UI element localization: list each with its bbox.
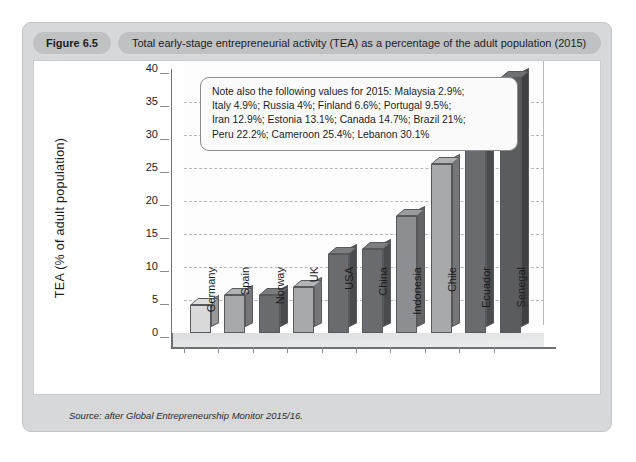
y-tick-mark — [160, 238, 169, 239]
y-tick-label: 40 — [132, 62, 158, 74]
figure-card: Figure 6.5 Total early-stage entrepreneu… — [22, 22, 612, 432]
x-tick-mark — [356, 347, 357, 353]
y-tick-label: 0 — [132, 326, 158, 338]
annotation-note-box: Note also the following values for 2015:… — [200, 77, 518, 151]
source-prefix: Source: after — [69, 410, 126, 421]
note-line: Note also the following values for 2015:… — [212, 85, 506, 99]
x-tick-mark — [184, 347, 185, 353]
bar-chart: TEA (% of adult population) 403530252015… — [34, 61, 602, 397]
note-line: Peru 22.2%; Cameroon 25.4%; Lebanon 30.1… — [212, 128, 506, 142]
x-tick-label: Germany — [205, 267, 217, 357]
figure-header: Figure 6.5 Total early-stage entrepreneu… — [33, 32, 601, 54]
x-axis-line — [171, 347, 556, 349]
y-tick-mark — [160, 73, 169, 74]
x-tick-mark — [253, 347, 254, 353]
y-tick-label: 20 — [132, 194, 158, 206]
x-tick-label: China — [377, 267, 389, 357]
x-tick-mark — [287, 347, 288, 353]
x-axis-left-edge — [171, 333, 173, 348]
figure-number-badge: Figure 6.5 — [33, 32, 111, 54]
x-tick-label: Ecuador — [480, 267, 492, 357]
y-tick-mark — [160, 172, 169, 173]
figure-source: Source: after Global Entrepreneurship Mo… — [69, 410, 303, 421]
y-tick-label: 30 — [132, 128, 158, 140]
x-tick-label: Senegal — [515, 267, 527, 357]
x-tick-label: Indonesia — [411, 267, 423, 357]
y-tick-label: 5 — [132, 293, 158, 305]
x-tick-mark — [425, 347, 426, 353]
x-tick-mark — [459, 347, 460, 353]
x-tick-mark — [218, 347, 219, 353]
x-tick-mark — [322, 347, 323, 353]
x-tick-label: UK — [308, 267, 320, 357]
x-tick-label: USA — [343, 267, 355, 357]
y-tick-label: 10 — [132, 260, 158, 272]
y-tick-mark — [160, 304, 169, 305]
note-line: Iran 12.9%; Estonia 13.1%; Canada 14.7%;… — [212, 113, 506, 127]
y-axis-title: TEA (% of adult population) — [53, 108, 67, 328]
figure-caption: Total early-stage entrepreneurial activi… — [118, 32, 601, 54]
note-line: Italy 4.9%; Russia 4%; Finland 6.6%; Por… — [212, 99, 506, 113]
y-tick-label: 15 — [132, 227, 158, 239]
y-tick-mark — [160, 271, 169, 272]
x-tick-label: Norway — [274, 267, 286, 357]
source-reference: Global Entrepreneurship Monitor 2015/16. — [126, 410, 303, 421]
x-tick-label: Spain — [239, 267, 251, 357]
x-tick-mark — [390, 347, 391, 353]
figure-body: TEA (% of adult population) 403530252015… — [33, 60, 601, 395]
y-tick-mark — [160, 337, 169, 338]
y-axis-tick-labels: 4035302520151050 — [130, 61, 158, 397]
y-tick-label: 35 — [132, 95, 158, 107]
x-tick-label: Chile — [446, 267, 458, 357]
y-tick-label: 25 — [132, 161, 158, 173]
y-tick-mark — [160, 106, 169, 107]
y-tick-mark — [160, 205, 169, 206]
y-tick-mark — [160, 139, 169, 140]
x-tick-mark — [494, 347, 495, 353]
